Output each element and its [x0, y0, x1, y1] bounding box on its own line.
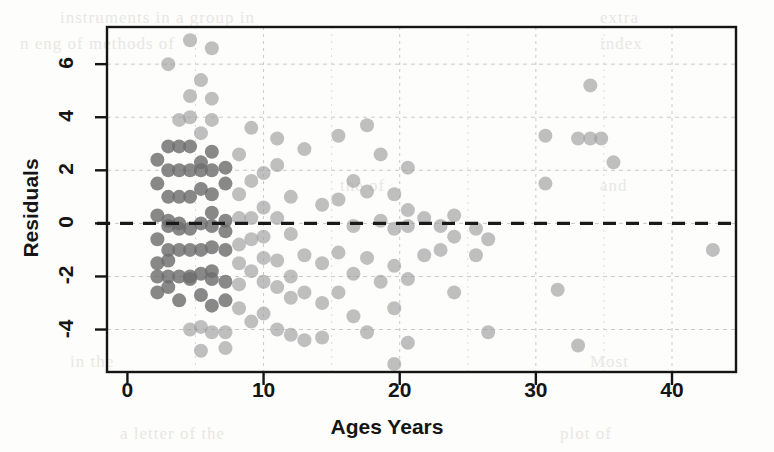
data-point	[205, 163, 219, 177]
data-point	[360, 118, 374, 132]
data-point	[387, 259, 401, 273]
data-point	[205, 41, 219, 55]
x-tick-label: 30	[514, 378, 558, 402]
data-point	[205, 219, 219, 233]
data-point	[315, 331, 329, 345]
data-point	[447, 230, 461, 244]
y-tick-label: -2	[54, 253, 78, 297]
data-point	[331, 246, 345, 260]
data-point	[232, 301, 246, 315]
data-point	[218, 325, 232, 339]
data-point	[538, 177, 552, 191]
data-point	[244, 121, 258, 135]
data-point	[331, 285, 345, 299]
data-point	[183, 89, 197, 103]
data-point	[571, 338, 585, 352]
data-point	[205, 272, 219, 286]
data-point	[218, 224, 232, 238]
data-points	[150, 33, 719, 371]
data-point	[270, 323, 284, 337]
data-point	[360, 185, 374, 199]
data-point	[183, 139, 197, 153]
y-axis-title: Residuals	[19, 128, 43, 288]
data-point	[481, 325, 495, 339]
data-point	[257, 307, 271, 321]
data-point	[374, 275, 388, 289]
data-point	[360, 251, 374, 265]
data-point	[270, 254, 284, 268]
data-point	[150, 153, 164, 167]
data-point	[218, 341, 232, 355]
data-point	[218, 293, 232, 307]
data-point	[315, 256, 329, 270]
data-point	[374, 214, 388, 228]
data-point	[270, 131, 284, 145]
data-point	[315, 198, 329, 212]
data-point	[183, 33, 197, 47]
data-point	[417, 248, 431, 262]
data-point	[218, 275, 232, 289]
data-point	[232, 147, 246, 161]
data-point	[401, 336, 415, 350]
data-point	[270, 280, 284, 294]
data-point	[297, 333, 311, 347]
y-tick-label: 4	[54, 94, 78, 138]
x-tick-label: 40	[650, 378, 694, 402]
data-point	[205, 240, 219, 254]
data-point	[571, 131, 585, 145]
x-tick-label: 20	[378, 378, 422, 402]
data-point	[481, 232, 495, 246]
data-point	[183, 110, 197, 124]
data-point	[150, 177, 164, 191]
data-point	[205, 113, 219, 127]
data-point	[606, 155, 620, 169]
data-point	[331, 129, 345, 143]
data-point	[194, 288, 208, 302]
data-point	[331, 193, 345, 207]
data-point	[346, 174, 360, 188]
y-tick-label: 2	[54, 147, 78, 191]
data-point	[205, 206, 219, 220]
data-point	[150, 232, 164, 246]
data-point	[172, 293, 186, 307]
data-point	[244, 232, 258, 246]
figure-canvas: instruments in a group inextran eng of m…	[0, 0, 774, 452]
x-tick-label: 0	[105, 378, 149, 402]
data-point	[469, 248, 483, 262]
data-point	[257, 275, 271, 289]
data-point	[284, 291, 298, 305]
data-point	[205, 299, 219, 313]
data-point	[315, 296, 329, 310]
data-point	[706, 243, 720, 257]
x-axis-title: Ages Years	[0, 415, 774, 439]
data-point	[161, 57, 175, 71]
data-point	[284, 190, 298, 204]
data-point	[161, 280, 175, 294]
data-point	[346, 219, 360, 233]
data-point	[538, 129, 552, 143]
data-point	[297, 285, 311, 299]
data-point	[205, 145, 219, 159]
data-point	[401, 203, 415, 217]
data-point	[257, 166, 271, 180]
data-point	[161, 254, 175, 268]
data-point	[551, 283, 565, 297]
data-point	[374, 147, 388, 161]
data-point	[284, 227, 298, 241]
data-point	[194, 73, 208, 87]
data-point	[583, 78, 597, 92]
data-point	[401, 272, 415, 286]
data-point	[270, 158, 284, 172]
data-point	[284, 269, 298, 283]
data-point	[346, 267, 360, 281]
data-point	[387, 301, 401, 315]
data-point	[205, 92, 219, 106]
data-point	[218, 243, 232, 257]
data-point	[297, 142, 311, 156]
data-point	[244, 264, 258, 278]
data-point	[401, 219, 415, 233]
data-point	[257, 251, 271, 265]
data-point	[257, 230, 271, 244]
data-point	[205, 187, 219, 201]
data-point	[434, 243, 448, 257]
